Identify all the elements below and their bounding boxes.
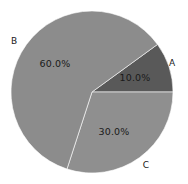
pie-category-label-c: C <box>143 161 149 170</box>
pie-percent-label-c: 30.0% <box>98 127 129 137</box>
pie-percent-label-a: 10.0% <box>119 73 150 83</box>
pie-chart-canvas <box>0 0 188 184</box>
pie-category-label-b: B <box>11 37 17 46</box>
pie-slices-group <box>11 11 173 173</box>
pie-category-label-a: A <box>169 59 175 68</box>
pie-chart-figure: 10.0%A30.0%C60.0%B <box>0 0 188 184</box>
pie-percent-label-b: 60.0% <box>39 59 70 69</box>
